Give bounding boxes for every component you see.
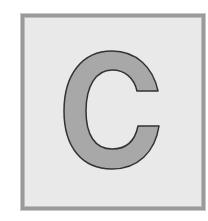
letter-c-glyph: C — [0, 0, 208, 221]
